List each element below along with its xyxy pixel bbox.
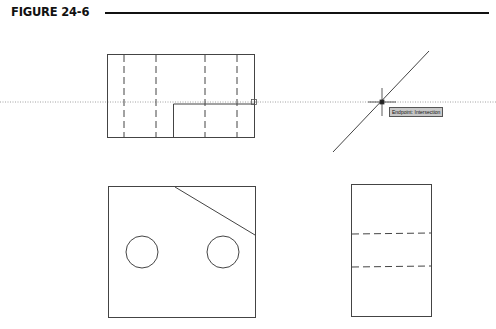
side-view [352, 185, 432, 317]
top-view [108, 55, 255, 138]
drawing-canvas[interactable] [0, 0, 496, 329]
front-view [109, 187, 256, 318]
osnap-tooltip: Endpoint: Intersection [389, 107, 443, 117]
